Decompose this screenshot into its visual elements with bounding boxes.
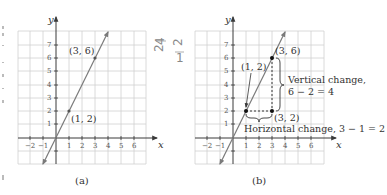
chart-a: y x 7 6 5 4 3 2 1 −2 −1 1 2 3 4 5 6	[18, 14, 164, 186]
y-tick-label: 2	[47, 107, 51, 115]
chart-b-caption: (b)	[252, 175, 266, 186]
y-tick-label: 4	[224, 81, 229, 89]
x-tick-label: 1	[67, 142, 71, 150]
chart-b-point-3-6	[270, 56, 274, 60]
x-tick-label: 6	[309, 142, 314, 150]
chart-a-label-3-6: (3, 6)	[69, 45, 95, 56]
x-tick-label: 2	[257, 142, 261, 150]
x-tick-label: 6	[132, 142, 137, 150]
y-tick-label: 3	[224, 94, 228, 102]
x-tick-label: −2	[25, 142, 35, 150]
chart-a-label-1-2: (1, 2)	[71, 113, 97, 124]
y-tick-label: 4	[47, 81, 52, 89]
svg-text:1: 1	[176, 51, 184, 65]
y-tick-label: 1	[47, 120, 51, 128]
y-tick-label: 7	[224, 41, 228, 49]
y-tick-label: 6	[224, 54, 229, 62]
x-tick-label: 5	[296, 142, 300, 150]
vertical-change-equation: 6 − 2 = 4	[288, 86, 334, 97]
x-tick-label: 3	[93, 142, 97, 150]
y-tick-label: 2	[224, 107, 228, 115]
x-tick-label: −2	[202, 142, 212, 150]
x-tick-label: 4	[106, 142, 111, 150]
handwritten-note: 4 2 2 1	[152, 37, 185, 65]
chart-b-label-3-6: (3, 6)	[275, 45, 301, 56]
y-tick-label: 7	[47, 41, 51, 49]
chart-b-point-1-2	[244, 109, 248, 113]
x-tick-label: 2	[80, 142, 84, 150]
chart-a-y-label: y	[47, 14, 54, 25]
chart-b-x-label: x	[336, 139, 342, 150]
y-tick-label: 5	[47, 67, 51, 75]
x-tick-label: −1	[38, 142, 48, 150]
chart-b-y-label: y	[224, 14, 231, 25]
y-tick-label: 1	[224, 120, 228, 128]
chart-a-point-3-6	[93, 56, 96, 59]
chart-a-x-label: x	[158, 139, 164, 150]
vertical-change-brace	[276, 58, 284, 111]
x-tick-label: 4	[283, 142, 288, 150]
x-tick-label: −1	[215, 142, 225, 150]
x-tick-label: 5	[119, 142, 123, 150]
horizontal-change-label: Horizontal change, 3 − 1 = 2	[244, 123, 385, 134]
chart-a-caption: (a)	[75, 175, 89, 186]
x-tick-label: 1	[244, 142, 248, 150]
figure-canvas: y x 7 6 5 4 3 2 1 −2 −1 1 2 3 4 5 6	[0, 0, 387, 195]
vertical-change-label: Vertical change,	[287, 74, 366, 85]
chart-b-label-1-2: (1, 2)	[241, 61, 267, 72]
svg-text:2: 2	[171, 38, 185, 46]
y-tick-label: 6	[47, 54, 52, 62]
x-tick-label: 3	[270, 142, 274, 150]
margin-remnants	[2, 26, 4, 180]
chart-b-label-3-2: (3, 2)	[274, 112, 300, 123]
svg-text:2: 2	[152, 44, 166, 52]
y-tick-label: 3	[47, 94, 51, 102]
chart-b: y x 7 6 5 4 3 2 1 −2 −1 1 2 3 4 5 6	[195, 14, 385, 186]
y-tick-label: 5	[224, 67, 228, 75]
